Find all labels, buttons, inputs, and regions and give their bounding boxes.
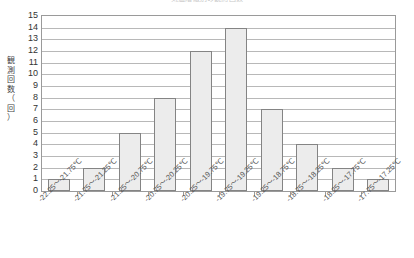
y-axis-tick-label: 2: [22, 163, 38, 172]
x-axis-tick: [148, 192, 149, 196]
y-axis-title-char: ）: [4, 113, 18, 123]
y-axis-tick-label: 9: [22, 81, 38, 90]
y-axis-title-char: 回: [4, 104, 18, 114]
y-axis-title-char: 測: [4, 66, 18, 76]
bar-series: [41, 15, 396, 192]
y-axis-tick-label: 4: [22, 139, 38, 148]
bar: [48, 179, 70, 191]
y-axis-tick-label: 5: [22, 128, 38, 137]
bar: [190, 51, 212, 191]
y-axis-title-char: （: [4, 94, 18, 104]
y-axis-tick-label: 12: [22, 46, 38, 55]
bar: [296, 144, 318, 191]
y-axis-tick-label: 14: [22, 23, 38, 32]
x-axis-tick: [325, 192, 326, 196]
bar: [332, 168, 354, 191]
y-axis-tick-label: 3: [22, 151, 38, 160]
y-axis-title-char: 回: [4, 75, 18, 85]
y-axis-tick-label: 6: [22, 116, 38, 125]
x-axis-tick: [77, 192, 78, 196]
x-axis-tick: [112, 192, 113, 196]
x-axis-tick: [254, 192, 255, 196]
x-axis-tick: [219, 192, 220, 196]
x-axis-tick: [183, 192, 184, 196]
y-axis-tick-label: 1: [22, 174, 38, 183]
y-axis-tick-label: 15: [22, 11, 38, 20]
bar: [261, 109, 283, 191]
y-axis-title-char: 観: [4, 56, 18, 66]
y-axis-tick-label: 10: [22, 69, 38, 78]
y-axis-tick-label: 13: [22, 34, 38, 43]
y-axis-tick-label: 7: [22, 104, 38, 113]
bar: [83, 168, 105, 191]
x-axis-tick: [290, 192, 291, 196]
chart-title: 気温階級別の観測回数: [0, 0, 414, 2]
y-axis-tick-label: 8: [22, 93, 38, 102]
bar: [119, 133, 141, 191]
histogram-chart: 気温階級別の観測回数 観測回数（回） 012345678910111213141…: [0, 0, 414, 258]
x-axis-tick: [361, 192, 362, 196]
bar: [225, 28, 247, 191]
bar: [367, 179, 389, 191]
y-axis-tick-label: 0: [22, 186, 38, 195]
y-axis-title: 観測回数（回）: [4, 56, 18, 123]
y-axis-title-char: 数: [4, 85, 18, 95]
y-axis-tick-label: 11: [22, 58, 38, 67]
bar: [154, 98, 176, 191]
